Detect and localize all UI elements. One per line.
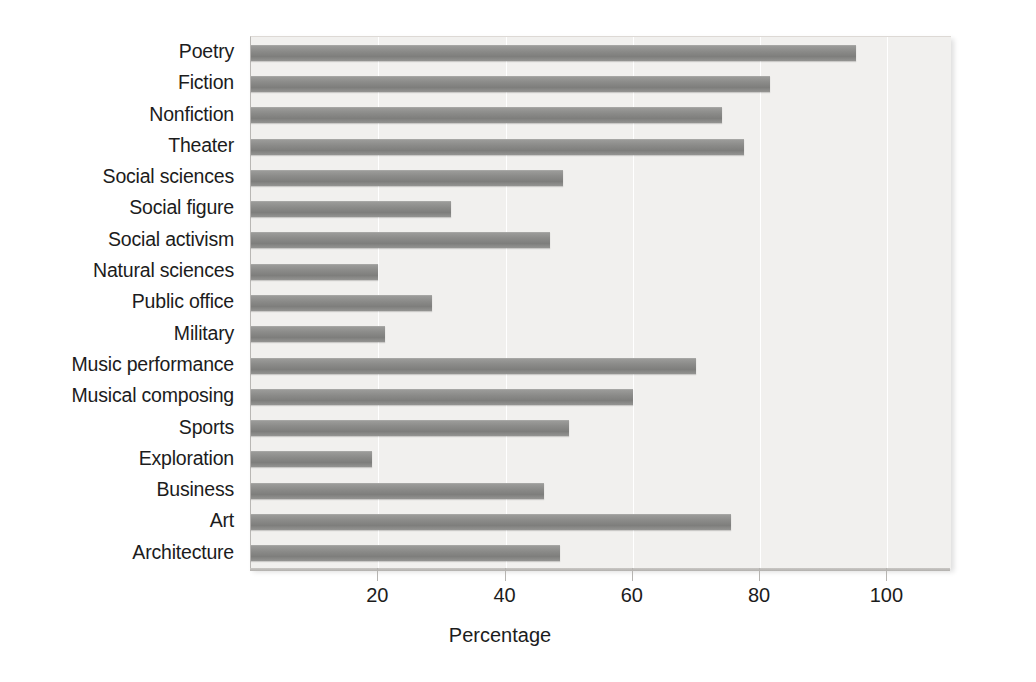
y-axis-label: Business xyxy=(0,474,243,505)
bar xyxy=(251,264,378,280)
y-axis-category-labels: PoetryFictionNonfictionTheaterSocial sci… xyxy=(0,36,243,568)
bar-row xyxy=(251,413,951,444)
x-tick-label: 60 xyxy=(621,584,643,607)
x-tick-40 xyxy=(505,568,506,581)
bar xyxy=(251,232,550,248)
bar xyxy=(251,295,432,311)
bar xyxy=(251,201,451,217)
bar xyxy=(251,451,372,467)
y-axis-label: Social sciences xyxy=(0,161,243,192)
y-axis-label: Social activism xyxy=(0,224,243,255)
bar-row xyxy=(251,506,951,537)
bar-row xyxy=(251,37,951,68)
bar xyxy=(251,483,544,499)
y-axis-label: Nonfiction xyxy=(0,99,243,130)
y-axis-label: Fiction xyxy=(0,67,243,98)
x-tick-100 xyxy=(886,568,887,581)
x-tick-20 xyxy=(377,568,378,581)
y-axis-label: Exploration xyxy=(0,443,243,474)
bar xyxy=(251,139,744,155)
bar-row xyxy=(251,193,951,224)
bar-row xyxy=(251,162,951,193)
y-axis-label: Musical composing xyxy=(0,380,243,411)
y-axis-label: Social figure xyxy=(0,192,243,223)
bar-row xyxy=(251,381,951,412)
bar-chart: PoetryFictionNonfictionTheaterSocial sci… xyxy=(0,0,1036,682)
plot-area xyxy=(250,36,951,569)
bar xyxy=(251,107,722,123)
y-axis-label: Poetry xyxy=(0,36,243,67)
y-axis-label: Natural sciences xyxy=(0,255,243,286)
bar-row xyxy=(251,538,951,569)
bars-layer xyxy=(251,37,951,569)
y-axis-label: Public office xyxy=(0,286,243,317)
x-tick-label: 20 xyxy=(366,584,388,607)
bar xyxy=(251,76,770,92)
bar xyxy=(251,545,560,561)
bar xyxy=(251,514,731,530)
y-axis-label: Sports xyxy=(0,412,243,443)
bar-row xyxy=(251,319,951,350)
x-axis-title: Percentage xyxy=(0,624,1036,647)
bar xyxy=(251,389,633,405)
x-axis-line xyxy=(250,568,950,571)
bar-row xyxy=(251,256,951,287)
bar-row xyxy=(251,444,951,475)
x-tick-label: 80 xyxy=(748,584,770,607)
bar-row xyxy=(251,100,951,131)
y-axis-label: Theater xyxy=(0,130,243,161)
x-tick-60 xyxy=(632,568,633,581)
bar-row xyxy=(251,350,951,381)
bar xyxy=(251,358,696,374)
bar-row xyxy=(251,287,951,318)
x-tick-label: 100 xyxy=(870,584,903,607)
x-axis-title-text: Percentage xyxy=(449,624,551,647)
bar xyxy=(251,45,856,61)
y-axis-label: Architecture xyxy=(0,537,243,568)
x-tick-80 xyxy=(759,568,760,581)
bar xyxy=(251,420,569,436)
bar-row xyxy=(251,68,951,99)
y-axis-label: Music performance xyxy=(0,349,243,380)
y-axis-label: Art xyxy=(0,505,243,536)
y-axis-label: Military xyxy=(0,318,243,349)
x-tick-label: 40 xyxy=(493,584,515,607)
bar-row xyxy=(251,131,951,162)
bar-row xyxy=(251,225,951,256)
bar xyxy=(251,170,563,186)
bar-row xyxy=(251,475,951,506)
bar xyxy=(251,326,385,342)
